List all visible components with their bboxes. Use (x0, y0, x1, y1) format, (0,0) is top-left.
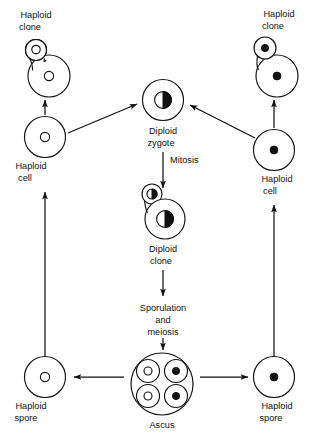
haploid-cell-left-label-line1: Haploid (15, 161, 46, 171)
haploid-spore-right-label-line2: spore (260, 413, 283, 423)
haploid-clone-right-label-line1: Haploid (263, 9, 294, 19)
haploid-clone-right-mother-nucleus (273, 72, 281, 80)
diploid-zygote-label-line1: Diploid (149, 126, 177, 136)
haploid-cell-left-nucleus (40, 132, 49, 141)
haploid-spore-right-label-line1: Haploid (261, 401, 292, 411)
haploid-cell-right-label-line2: cell (263, 186, 277, 196)
ascus-spore-bottom-left-nucleus (144, 392, 152, 400)
node-haploid-spore-right (254, 357, 295, 398)
diploid-clone-label-line1: Diploid (149, 244, 177, 254)
ascus-spore-top-right-nucleus (172, 367, 179, 374)
node-haploid-cell-right (254, 130, 295, 171)
haploid-clone-right-bud-nucleus (261, 44, 268, 51)
haploid-spore-right-nucleus (270, 373, 278, 381)
node-diploid-zygote (143, 80, 184, 121)
haploid-clone-right-label-line2: clone (262, 21, 284, 31)
node-haploid-clone-right (254, 37, 298, 97)
haploid-clone-left-mother-nucleus (44, 71, 53, 80)
node-haploid-clone-left (26, 40, 71, 98)
haploid-cell-right-nucleus (270, 146, 278, 154)
diploid-zygote-label-line2: zygote (147, 138, 174, 148)
haploid-clone-left-label-line2: clone (19, 22, 41, 32)
node-ascus (131, 353, 193, 415)
node-diploid-clone (142, 184, 185, 239)
sporulation-label-line3: meiosis (147, 327, 179, 337)
haploid-cell-left-label-line2: cell (18, 173, 32, 183)
ascus-spore-top-left-nucleus (144, 367, 152, 375)
haploid-spore-left-label-line2: spore (15, 413, 38, 423)
haploid-clone-right-neck (257, 56, 259, 71)
haploid-spore-left-label-line1: Haploid (15, 401, 46, 411)
node-haploid-cell-left (25, 117, 66, 158)
sporulation-label-line1: Sporulation (140, 303, 186, 313)
mitosis-label: Mitosis (170, 155, 199, 165)
haploid-spore-left-nucleus (40, 372, 49, 381)
arrow-haploid-cell-right-to-zygote (190, 105, 255, 138)
ascus-label: Ascus (149, 420, 174, 430)
ascus-spore-bottom-right-nucleus (172, 392, 179, 399)
diploid-clone-label-line2: clone (150, 256, 172, 266)
node-haploid-spore-left (25, 357, 66, 398)
haploid-cell-right-label-line1: Haploid (261, 174, 292, 184)
yeast-life-cycle-diagram: Haploid clone Haploid cell Haploid spore… (0, 0, 315, 438)
haploid-clone-left-bud-nucleus (32, 45, 40, 53)
sporulation-label-line2: and (155, 315, 170, 325)
arrow-haploid-cell-left-to-zygote (68, 104, 137, 133)
haploid-clone-left-label-line1: Haploid (20, 10, 51, 20)
